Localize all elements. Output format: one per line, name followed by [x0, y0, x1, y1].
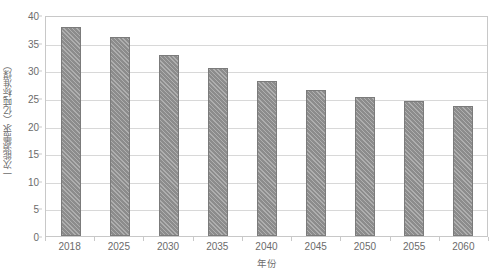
y-axis-tick-mark — [38, 237, 42, 238]
bar[interactable] — [306, 90, 326, 236]
bar[interactable] — [453, 106, 473, 236]
y-axis-tick-mark — [38, 43, 42, 44]
y-axis-tick-mark — [38, 209, 42, 210]
x-axis-tick-label: 2035 — [193, 241, 242, 257]
bar-slot — [144, 17, 193, 236]
y-axis-tick-mark — [38, 181, 42, 182]
x-axis-tick-label: 2040 — [242, 241, 291, 257]
bar-slot — [46, 17, 95, 236]
bar[interactable] — [257, 81, 277, 236]
y-axis-tick-mark — [38, 98, 42, 99]
y-axis-tick-labels: 0510152025303540 — [16, 10, 42, 242]
x-axis-tick-label: 2055 — [390, 241, 439, 257]
bar-series — [46, 17, 487, 236]
bar[interactable] — [159, 55, 179, 236]
bar[interactable] — [404, 101, 424, 236]
x-axis-tick-label: 2018 — [45, 241, 94, 257]
bar-slot — [242, 17, 291, 236]
y-axis-tick-mark — [38, 154, 42, 155]
bar[interactable] — [355, 97, 375, 236]
bar-slot — [291, 17, 340, 236]
x-axis-tick-label: 2025 — [94, 241, 143, 257]
bar-slot — [193, 17, 242, 236]
bar[interactable] — [61, 27, 81, 236]
x-axis-tick-label: 2045 — [291, 241, 340, 257]
x-axis-tick-mark — [488, 237, 489, 241]
y-axis-tick-mark — [38, 126, 42, 127]
bar-slot — [389, 17, 438, 236]
plot-area — [45, 16, 488, 237]
bar-slot — [340, 17, 389, 236]
bar[interactable] — [110, 37, 130, 236]
y-axis-title: 一次能源需求（亿吨标准煤） — [0, 0, 16, 240]
bar[interactable] — [208, 68, 228, 237]
bar-slot — [438, 17, 487, 236]
y-axis-tick-mark — [38, 71, 42, 72]
x-axis-tick-labels: 201820252030203520402045205020552060 — [45, 241, 488, 257]
y-axis-tick-mark — [38, 16, 42, 17]
bar-slot — [95, 17, 144, 236]
x-axis-tick-label: 2060 — [439, 241, 488, 257]
x-axis-tick-label: 2030 — [143, 241, 192, 257]
x-axis-tick-label: 2050 — [340, 241, 389, 257]
bar-chart: 一次能源需求（亿吨标准煤） 0510152025303540 201820252… — [0, 0, 493, 275]
x-axis-title: 年份 — [45, 256, 488, 270]
